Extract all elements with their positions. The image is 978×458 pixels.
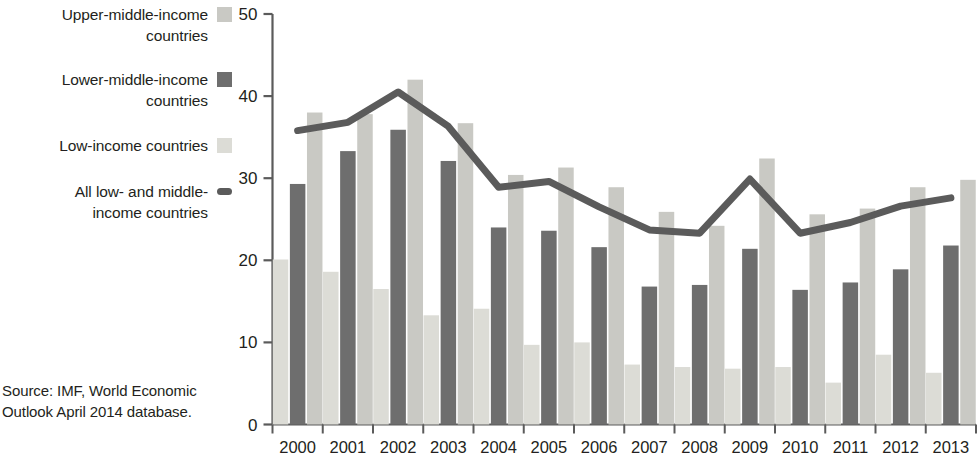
bar-upper-middle-income-countries-2010 — [809, 214, 825, 424]
bar-lower-middle-income-countries-2011 — [843, 282, 859, 424]
y-tick-label: 20 — [239, 251, 258, 270]
bar-upper-middle-income-countries-2004 — [508, 175, 523, 425]
bar-low-income-countries-2004 — [474, 309, 490, 425]
bar-low-income-countries-2007 — [625, 365, 641, 425]
bar-lower-middle-income-countries-2002 — [390, 130, 406, 425]
legend-item-low-income: Low-income countries — [0, 135, 232, 156]
x-tick-label-2004: 2004 — [480, 438, 517, 456]
bar-upper-middle-income-countries-2007 — [659, 212, 675, 425]
legend-item-lower-middle-income: Lower-middle-income countries — [0, 69, 232, 111]
bar-low-income-countries-2012 — [876, 355, 892, 425]
bar-lower-middle-income-countries-2013 — [943, 246, 959, 425]
bar-low-income-countries-2000 — [273, 259, 289, 424]
bar-upper-middle-income-countries-2013 — [960, 180, 976, 425]
source-note: Source: IMF, World Economic Outlook Apri… — [2, 380, 234, 422]
y-axis-ticks — [264, 14, 273, 425]
legend-swatch-low-income — [217, 138, 232, 153]
bar-lower-middle-income-countries-2007 — [642, 287, 658, 425]
bar-upper-middle-income-countries-2011 — [860, 209, 876, 425]
x-tick-label-2011: 2011 — [833, 438, 868, 456]
x-tick-label-2010: 2010 — [782, 438, 819, 456]
x-tick-label-2001: 2001 — [330, 438, 367, 456]
chart-svg: 01020304050 2000200120022003200420052006… — [232, 0, 978, 458]
x-tick-label-2005: 2005 — [531, 438, 568, 456]
bar-upper-middle-income-countries-2005 — [558, 168, 574, 425]
bar-lower-middle-income-countries-2005 — [541, 231, 557, 425]
bar-upper-middle-income-countries-2003 — [458, 123, 474, 424]
x-tick-label-2002: 2002 — [380, 438, 417, 456]
legend-label-lower-middle-income: Lower-middle-income countries — [30, 69, 208, 111]
x-tick-label-2006: 2006 — [581, 438, 618, 456]
bar-upper-middle-income-countries-2002 — [407, 80, 423, 425]
bar-lower-middle-income-countries-2008 — [692, 285, 708, 425]
x-tick-label-2008: 2008 — [681, 438, 718, 456]
x-tick-label-2007: 2007 — [631, 438, 668, 456]
bar-upper-middle-income-countries-2001 — [357, 114, 373, 424]
x-tick-label-2003: 2003 — [430, 438, 467, 456]
x-tick-label-2009: 2009 — [732, 438, 769, 456]
bar-low-income-countries-2006 — [574, 342, 590, 424]
bar-lower-middle-income-countries-2003 — [441, 161, 457, 425]
bar-low-income-countries-2003 — [424, 315, 440, 424]
legend-line-all-low-and-middle-income — [217, 188, 232, 195]
bar-lower-middle-income-countries-2004 — [491, 227, 507, 424]
bar-lower-middle-income-countries-2009 — [742, 249, 758, 425]
chart-legend: Upper-middle-income countries Lower-midd… — [0, 0, 232, 223]
bar-low-income-countries-2008 — [675, 367, 691, 424]
y-tick-label: 40 — [239, 87, 258, 106]
legend-item-all-low-and-middle-income: All low- and middle-income countries — [0, 181, 232, 223]
x-tick-label-2000: 2000 — [279, 438, 316, 456]
bar-lower-middle-income-countries-2010 — [792, 290, 808, 425]
bar-lower-middle-income-countries-2012 — [893, 269, 909, 424]
bar-low-income-countries-2001 — [323, 272, 339, 425]
chart-page: Upper-middle-income countries Lower-midd… — [0, 0, 978, 458]
bar-low-income-countries-2002 — [373, 289, 389, 424]
bar-upper-middle-income-countries-2000 — [307, 113, 323, 425]
y-tick-label: 10 — [239, 333, 258, 352]
y-axis-labels: 01020304050 — [239, 5, 258, 435]
bar-upper-middle-income-countries-2008 — [709, 226, 725, 425]
bar-low-income-countries-2010 — [775, 367, 791, 424]
bar-lower-middle-income-countries-2006 — [591, 247, 607, 424]
x-axis-labels: 2000200120022003200420052006200720082009… — [279, 438, 969, 456]
x-axis-ticks — [273, 425, 977, 434]
bar-low-income-countries-2011 — [826, 383, 842, 425]
legend-label-upper-middle-income: Upper-middle-income countries — [30, 4, 208, 46]
chart-area: 01020304050 2000200120022003200420052006… — [232, 0, 978, 458]
legend-swatch-upper-middle-income — [217, 7, 232, 22]
bar-upper-middle-income-countries-2006 — [608, 187, 624, 424]
legend-label-all-low-and-middle-income: All low- and middle-income countries — [30, 181, 208, 223]
bar-low-income-countries-2005 — [524, 345, 540, 425]
bar-lower-middle-income-countries-2001 — [340, 151, 356, 424]
bar-low-income-countries-2013 — [926, 373, 942, 425]
y-tick-label: 30 — [239, 169, 258, 188]
legend-swatch-lower-middle-income — [217, 72, 232, 87]
y-tick-label: 50 — [239, 5, 258, 24]
y-tick-label: 0 — [248, 416, 257, 435]
legend-item-upper-middle-income: Upper-middle-income countries — [0, 4, 232, 46]
bar-series-group — [273, 80, 976, 425]
bar-low-income-countries-2009 — [725, 369, 741, 425]
bar-upper-middle-income-countries-2012 — [910, 187, 926, 424]
x-tick-label-2012: 2012 — [882, 438, 919, 456]
legend-label-low-income: Low-income countries — [59, 135, 208, 156]
x-tick-label-2013: 2013 — [933, 438, 970, 456]
bar-lower-middle-income-countries-2000 — [290, 184, 306, 425]
